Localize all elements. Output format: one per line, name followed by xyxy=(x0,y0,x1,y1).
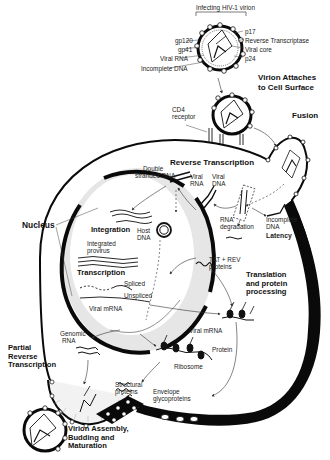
structural-line2: proteins xyxy=(115,388,142,395)
incomplete-dna-label: Incomplete DNA xyxy=(141,65,188,72)
viral-mrna-cytoplasm-label: Viral mRNA xyxy=(189,327,222,334)
viral-rna-line2: RNA xyxy=(190,180,204,187)
stage-attach-line1: Virion Attaches xyxy=(258,73,316,83)
ribosome-label: Ribosome xyxy=(174,363,203,370)
attaching-virion xyxy=(186,93,276,146)
viral-rna-label: Viral RNA xyxy=(160,55,188,62)
host-dna-line1: Host xyxy=(137,227,151,234)
rna-degradation-label: RNA degradation xyxy=(220,216,254,230)
host-dna-line2: DNA xyxy=(137,234,151,241)
stage-attach: Virion Attaches to Cell Surface xyxy=(258,73,316,92)
gp41-label: gp41 xyxy=(178,46,192,53)
double-stranded-dna-label: Double stranded DNA xyxy=(135,165,175,179)
structural-proteins-label: Structural proteins xyxy=(115,381,142,395)
incomplete-dna-rt-label: Incomplete DNA xyxy=(266,216,297,230)
gp120-label: gp120 xyxy=(175,37,193,44)
latency-label: Latency xyxy=(266,232,292,239)
viral-dna-line1: Viral xyxy=(212,173,226,180)
integrated-line1: Integrated xyxy=(87,240,116,247)
viral-mrna-nucleus-label: Viral mRNA xyxy=(89,305,122,312)
viral-rna-line1: Viral xyxy=(190,173,204,180)
unspliced-label: Unspliced xyxy=(124,292,152,299)
host-dna-label: Host DNA xyxy=(137,227,151,241)
double-line2: stranded DNA xyxy=(135,172,175,179)
incomplete-line1: Incomplete xyxy=(266,216,297,223)
partial-line3: Transcription xyxy=(8,361,56,370)
nucleus-label: Nucleus xyxy=(22,221,55,231)
envelope-glycoproteins-label: Envelope glycoproteins xyxy=(153,388,191,402)
stage-integration: Integration xyxy=(91,225,130,235)
envelope-line1: Envelope xyxy=(153,388,191,395)
reverse-transcriptase-label: Reverse Transcriptase xyxy=(245,37,309,44)
tat-rev-line1: TAT + REV xyxy=(209,256,240,263)
double-line1: Double xyxy=(135,165,175,172)
p17-label: p17 xyxy=(245,28,256,35)
protein-label: Protein xyxy=(212,346,232,353)
stage-transcription: Transcription xyxy=(77,268,125,278)
viral-dna-rt-label: Viral DNA xyxy=(212,173,226,187)
rna-deg-line2: degradation xyxy=(220,223,254,230)
nucleus xyxy=(62,168,214,353)
spliced-label: Spliced xyxy=(124,280,145,287)
stage-assembly: Virion Assembly, Budding and Maturation xyxy=(68,425,129,451)
stage-attach-line2: to Cell Surface xyxy=(258,83,316,93)
stage-partial-reverse-transcription: Partial Reverse Transcription xyxy=(8,344,56,370)
viral-dna-line2: DNA xyxy=(212,180,226,187)
translation-line3: processing xyxy=(246,288,287,297)
tat-rev-label: TAT + REV proteins xyxy=(209,256,240,270)
envelope-line2: glycoproteins xyxy=(153,395,191,402)
stage-reverse-transcription: Reverse Transcription xyxy=(170,158,254,168)
assembly-line3: Maturation xyxy=(68,442,129,451)
stage-translation: Translation and protein processing xyxy=(246,271,287,297)
cd4-line2: receptor xyxy=(172,113,195,120)
infecting-virion-heading: Infecting HIV-1 virion xyxy=(196,4,255,11)
integrated-line2: provirus xyxy=(87,247,116,254)
stage-fusion: Fusion xyxy=(292,111,318,121)
integrated-provirus-label: Integrated provirus xyxy=(87,240,116,254)
genomic-line1: Genomic xyxy=(60,330,86,337)
viral-rna-rt-label: Viral RNA xyxy=(190,173,204,187)
genomic-rna-label: Genomic RNA xyxy=(60,330,86,344)
structural-line1: Structural xyxy=(115,381,142,388)
viral-core-label: Viral core xyxy=(245,46,272,53)
genomic-line2: RNA xyxy=(60,337,86,344)
cd4-receptor-label: CD4 receptor xyxy=(172,106,195,120)
p24-label: p24 xyxy=(245,55,256,62)
incomplete-line2: DNA xyxy=(266,223,297,230)
cd4-line1: CD4 xyxy=(172,106,195,113)
tat-rev-line2: proteins xyxy=(209,263,240,270)
rna-deg-line1: RNA xyxy=(220,216,254,223)
